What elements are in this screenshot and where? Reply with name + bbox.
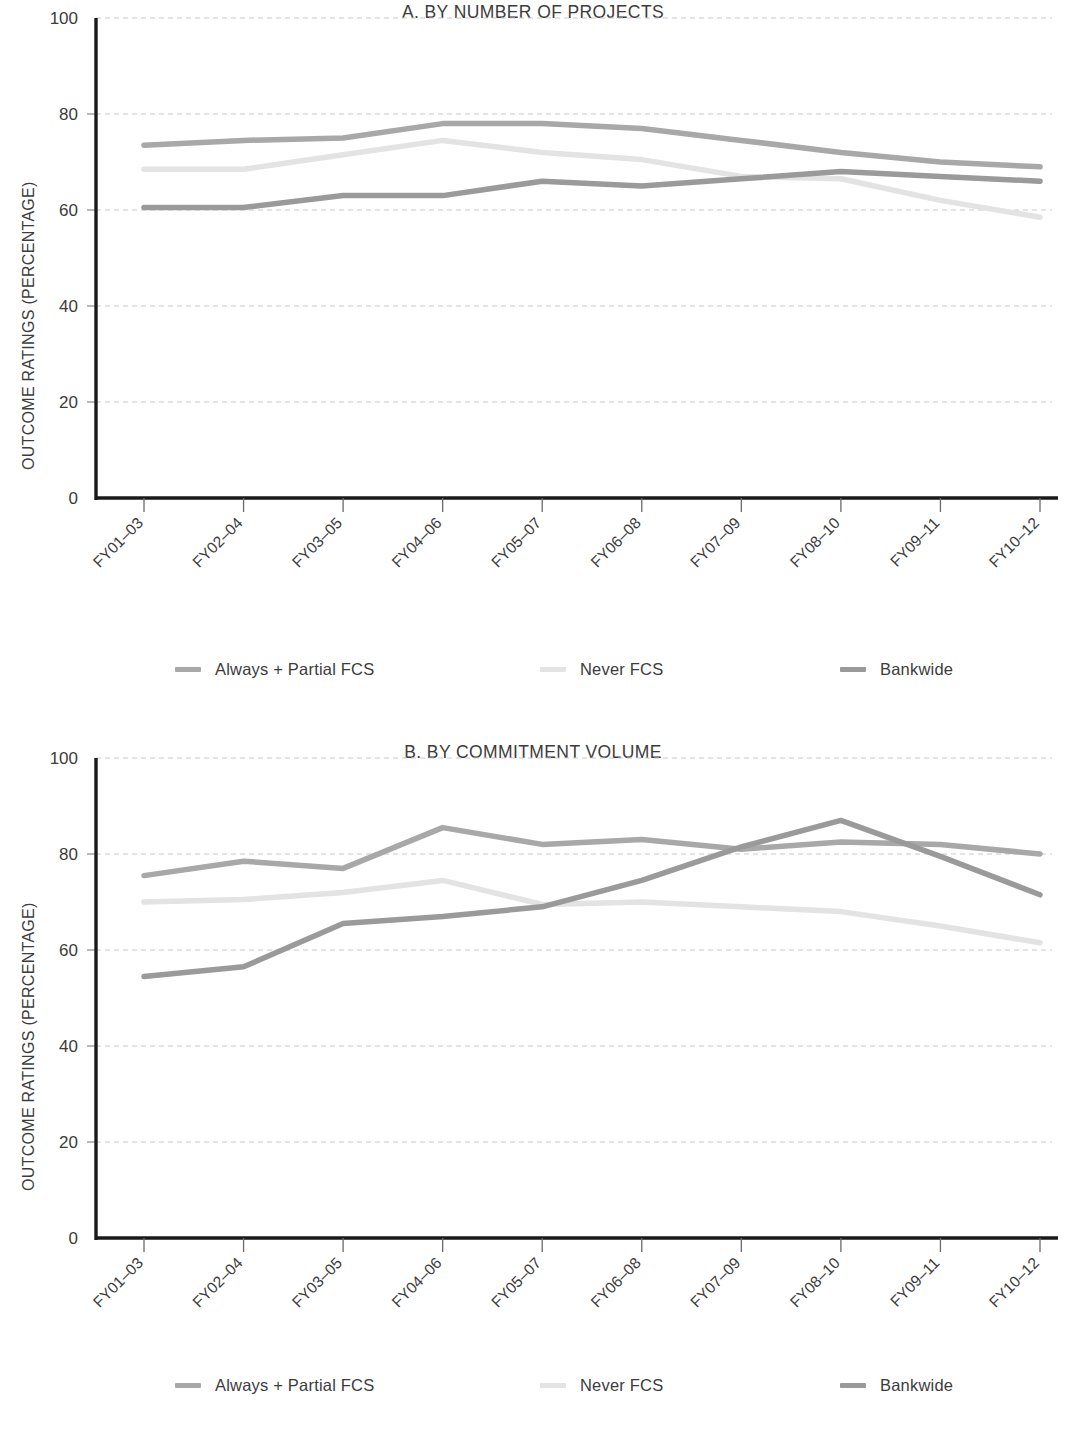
x-axis-tick-label: FY07–09	[687, 1254, 744, 1311]
series-line	[144, 172, 1040, 208]
x-axis-tick-label: FY10–12	[986, 514, 1043, 571]
y-axis-tick-label: 40	[59, 1037, 78, 1056]
legend-swatch-icon	[175, 1383, 201, 1388]
x-axis-tick-label: FY06–08	[587, 514, 644, 571]
legend-label: Never FCS	[580, 660, 663, 679]
x-axis-tick-label: FY07–09	[687, 514, 744, 571]
legend-label: Always + Partial FCS	[215, 1376, 374, 1395]
legend-item: Always + Partial FCS	[175, 660, 374, 679]
legend-item: Bankwide	[840, 660, 953, 679]
y-axis-tick-label: 0	[69, 489, 78, 508]
legend-swatch-icon	[175, 667, 201, 672]
series-line	[144, 828, 1040, 876]
legend-label: Bankwide	[880, 1376, 953, 1395]
x-axis-tick-label: FY05–07	[488, 514, 545, 571]
x-axis-tick-label: FY05–07	[488, 1254, 545, 1311]
legend-item: Always + Partial FCS	[175, 1376, 374, 1395]
chart-panel-a: A. BY NUMBER OF PROJECTS OUTCOME RATINGS…	[0, 0, 1066, 716]
y-axis-tick-label: 0	[69, 1229, 78, 1248]
y-axis-tick-label: 60	[59, 201, 78, 220]
series-line	[144, 124, 1040, 167]
x-axis-tick-label: FY06–08	[587, 1254, 644, 1311]
x-axis-tick-label: FY04–06	[388, 514, 445, 571]
x-axis-tick-label: FY03–05	[289, 1254, 346, 1311]
panel-b-legend: Always + Partial FCSNever FCSBankwide	[0, 1376, 1066, 1416]
x-axis-tick-label: FY02–04	[189, 1254, 246, 1311]
panel-a-plot: 020406080100FY01–03FY02–04FY03–05FY04–06…	[0, 0, 1066, 650]
x-axis-tick-label: FY03–05	[289, 514, 346, 571]
x-axis-tick-label: FY10–12	[986, 1254, 1043, 1311]
y-axis-tick-label: 40	[59, 297, 78, 316]
series-line	[144, 880, 1040, 942]
panel-b-plot: 020406080100FY01–03FY02–04FY03–05FY04–06…	[0, 740, 1066, 1390]
legend-label: Never FCS	[580, 1376, 663, 1395]
legend-swatch-icon	[840, 1383, 866, 1388]
legend-label: Always + Partial FCS	[215, 660, 374, 679]
y-axis-tick-label: 60	[59, 941, 78, 960]
legend-item: Never FCS	[540, 1376, 663, 1395]
x-axis-tick-label: FY08–10	[786, 1254, 843, 1311]
legend-swatch-icon	[840, 667, 866, 672]
chart-panel-b: B. BY COMMITMENT VOLUME OUTCOME RATINGS …	[0, 716, 1066, 1433]
y-axis-tick-label: 20	[59, 1133, 78, 1152]
x-axis-tick-label: FY01–03	[90, 1254, 147, 1311]
y-axis-tick-label: 100	[50, 9, 78, 28]
y-axis-tick-label: 20	[59, 393, 78, 412]
x-axis-tick-label: FY04–06	[388, 1254, 445, 1311]
panel-a-legend: Always + Partial FCSNever FCSBankwide	[0, 660, 1066, 700]
x-axis-tick-label: FY09–11	[887, 1254, 943, 1310]
legend-swatch-icon	[540, 1383, 566, 1388]
y-axis-tick-label: 80	[59, 105, 78, 124]
x-axis-tick-label: FY02–04	[189, 514, 246, 571]
y-axis-tick-label: 100	[50, 749, 78, 768]
y-axis-tick-label: 80	[59, 845, 78, 864]
x-axis-tick-label: FY08–10	[786, 514, 843, 571]
legend-item: Bankwide	[840, 1376, 953, 1395]
legend-item: Never FCS	[540, 660, 663, 679]
legend-swatch-icon	[540, 667, 566, 672]
legend-label: Bankwide	[880, 660, 953, 679]
x-axis-tick-label: FY09–11	[887, 514, 943, 570]
x-axis-tick-label: FY01–03	[90, 514, 147, 571]
